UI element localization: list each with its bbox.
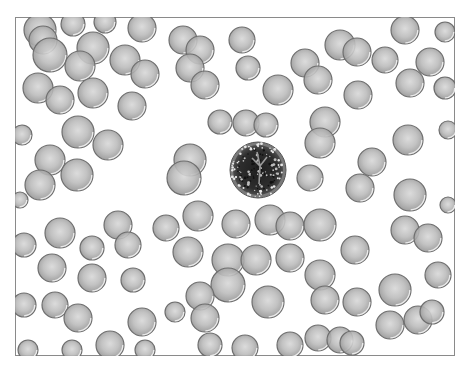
red-blood-cell bbox=[341, 236, 369, 264]
granule bbox=[257, 193, 259, 195]
granule bbox=[253, 168, 255, 170]
granule bbox=[232, 165, 233, 166]
granule bbox=[232, 166, 234, 168]
granule bbox=[239, 171, 240, 172]
red-blood-cell bbox=[232, 335, 258, 361]
red-blood-cell bbox=[305, 128, 335, 158]
red-blood-cell bbox=[304, 209, 336, 241]
granule bbox=[239, 185, 241, 187]
granule bbox=[240, 175, 242, 177]
granule bbox=[231, 169, 233, 171]
red-blood-cell bbox=[135, 340, 155, 360]
granule bbox=[256, 185, 257, 186]
red-blood-cell bbox=[153, 215, 179, 241]
red-blood-cell bbox=[391, 16, 419, 44]
red-blood-cell bbox=[61, 12, 85, 36]
granule bbox=[259, 195, 261, 197]
red-blood-cell bbox=[236, 56, 260, 80]
granule bbox=[250, 180, 252, 182]
granule bbox=[243, 160, 245, 162]
red-blood-cell bbox=[263, 75, 293, 105]
granule bbox=[273, 185, 276, 188]
red-blood-cell bbox=[115, 232, 141, 258]
granule bbox=[260, 185, 262, 187]
granule bbox=[274, 180, 276, 182]
red-blood-cell bbox=[435, 22, 455, 42]
red-blood-cell bbox=[344, 81, 372, 109]
granule bbox=[253, 148, 255, 150]
red-blood-cell bbox=[379, 274, 411, 306]
granule bbox=[238, 161, 239, 162]
red-blood-cell bbox=[94, 11, 116, 33]
granule bbox=[261, 147, 263, 149]
granule bbox=[275, 168, 278, 171]
red-blood-cell bbox=[93, 130, 123, 160]
red-blood-cell bbox=[78, 264, 106, 292]
red-blood-cell bbox=[198, 333, 222, 357]
granule bbox=[232, 163, 234, 165]
granule bbox=[244, 157, 246, 159]
granule bbox=[271, 186, 273, 188]
red-blood-cell bbox=[343, 38, 371, 66]
red-blood-cell bbox=[346, 174, 374, 202]
granule bbox=[254, 190, 255, 191]
granule bbox=[270, 193, 272, 195]
red-blood-cell bbox=[343, 288, 371, 316]
blood-smear-figure bbox=[0, 0, 470, 379]
red-blood-cell bbox=[33, 38, 67, 72]
red-blood-cell bbox=[165, 302, 185, 322]
red-blood-cell bbox=[118, 92, 146, 120]
red-blood-cell bbox=[297, 165, 323, 191]
leukocyte bbox=[230, 142, 286, 198]
granule bbox=[278, 164, 280, 166]
granule bbox=[250, 148, 253, 151]
granule bbox=[277, 172, 279, 174]
granule bbox=[262, 154, 264, 156]
granule bbox=[248, 146, 250, 148]
red-blood-cell bbox=[131, 60, 159, 88]
red-blood-cell bbox=[414, 224, 442, 252]
red-blood-cell bbox=[358, 148, 386, 176]
red-blood-cell bbox=[208, 110, 232, 134]
granule bbox=[266, 154, 267, 155]
granule bbox=[237, 171, 238, 172]
red-blood-cell bbox=[434, 77, 456, 99]
granule bbox=[251, 173, 253, 175]
granule bbox=[247, 186, 249, 188]
granule bbox=[269, 148, 270, 149]
red-blood-cell bbox=[229, 27, 255, 53]
granule bbox=[233, 161, 234, 162]
red-blood-cell bbox=[18, 340, 38, 360]
red-blood-cell bbox=[440, 197, 456, 213]
red-blood-cell bbox=[241, 245, 271, 275]
red-blood-cell bbox=[128, 14, 156, 42]
red-blood-cell bbox=[211, 268, 245, 302]
granule bbox=[274, 158, 277, 161]
granule bbox=[233, 177, 236, 180]
granule bbox=[253, 175, 254, 176]
granule bbox=[278, 159, 280, 161]
red-blood-cell bbox=[191, 304, 219, 332]
red-blood-cell bbox=[45, 218, 75, 248]
granule bbox=[256, 166, 257, 167]
granule bbox=[247, 181, 250, 184]
granule bbox=[265, 171, 266, 172]
red-blood-cell bbox=[62, 116, 94, 148]
granule bbox=[247, 193, 250, 196]
granule bbox=[266, 189, 268, 191]
red-blood-cell bbox=[252, 286, 284, 318]
granule bbox=[270, 174, 272, 176]
red-blood-cell bbox=[396, 69, 424, 97]
red-blood-cell bbox=[340, 331, 364, 355]
granule bbox=[272, 181, 274, 183]
granule bbox=[268, 185, 270, 187]
granule bbox=[261, 169, 262, 170]
granule bbox=[281, 172, 283, 174]
red-blood-cell bbox=[311, 286, 339, 314]
red-blood-cell bbox=[393, 125, 423, 155]
red-blood-cell bbox=[38, 254, 66, 282]
granule bbox=[279, 178, 281, 180]
granule bbox=[270, 150, 272, 152]
granule bbox=[273, 148, 276, 151]
red-blood-cell bbox=[12, 233, 36, 257]
